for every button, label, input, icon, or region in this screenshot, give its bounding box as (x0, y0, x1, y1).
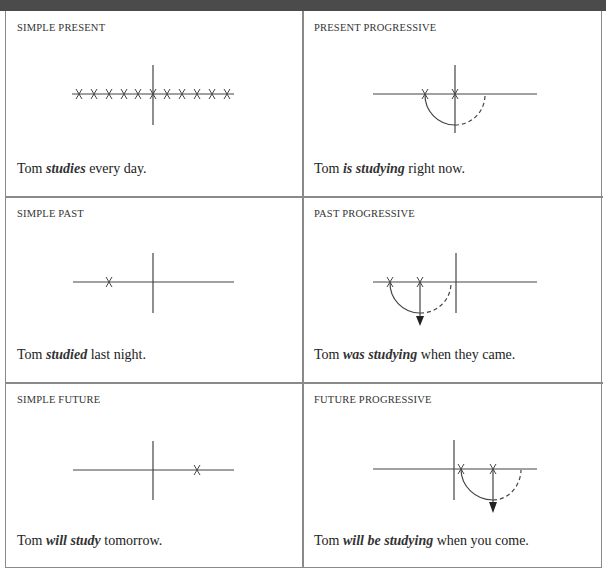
panel-past-progressive: PAST PROGRESSIVE Tom was studying when t… (303, 197, 603, 382)
example-sentence: Tom studied last night. (17, 347, 146, 363)
verb-phrase: will be studying (343, 533, 433, 548)
verb-phrase: studied (46, 347, 87, 362)
verb-phrase: was studying (343, 347, 417, 362)
panel-simple-future: SIMPLE FUTURE Tom will study tomorrow. (6, 383, 302, 568)
arrow-down-icon (416, 316, 424, 326)
example-sentence: Tom will be studying when you come. (314, 533, 529, 549)
panel-simple-present: SIMPLE PRESENT Tom studies every day. (6, 11, 302, 196)
verb-phrase: will study (46, 533, 101, 548)
example-sentence: Tom will study tomorrow. (17, 533, 162, 549)
verb-phrase: is studying (343, 161, 405, 176)
example-sentence: Tom is studying right now. (314, 161, 465, 177)
panel-present-progressive: PRESENT PROGRESSIVE Tom is studying righ… (303, 11, 603, 196)
example-sentence: Tom studies every day. (17, 161, 147, 177)
panel-simple-past: SIMPLE PAST Tom studied last night. (6, 197, 302, 382)
example-sentence: Tom was studying when they came. (314, 347, 515, 363)
top-bar (0, 0, 606, 11)
arrow-down-icon (489, 502, 497, 513)
tense-table: SIMPLE PRESENT Tom studies every day. (5, 11, 602, 568)
panel-future-progressive: FUTURE PROGRESSIVE Tom will be studying … (303, 383, 603, 568)
verb-phrase: studies (46, 161, 86, 176)
